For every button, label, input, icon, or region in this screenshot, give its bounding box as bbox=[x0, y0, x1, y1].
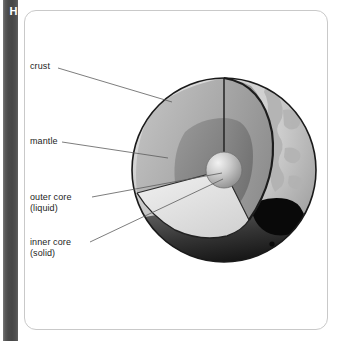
earth-cutaway-svg bbox=[131, 52, 317, 288]
figure-letter: H bbox=[7, 5, 20, 18]
island-tasmania bbox=[269, 241, 274, 246]
label-crust: crust bbox=[30, 61, 50, 72]
earth-cutaway-diagram bbox=[131, 52, 317, 288]
label-mantle: mantle bbox=[30, 136, 58, 147]
figure-spine: H bbox=[3, 0, 18, 341]
cutaway-wedge bbox=[136, 78, 273, 238]
inner-core-sphere bbox=[206, 152, 242, 188]
label-inner-core: inner core (solid) bbox=[30, 237, 71, 259]
label-outer-core: outer core (liquid) bbox=[30, 192, 72, 214]
